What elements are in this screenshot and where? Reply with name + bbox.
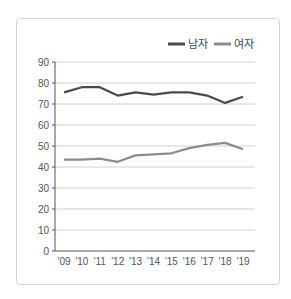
y-tick-label: 30 [38,183,50,194]
y-tick-label: 0 [43,246,49,257]
y-tick-label: 20 [38,204,50,215]
legend: 남자 여자 [168,38,254,51]
y-tick-label: 40 [38,162,50,173]
legend-male-label: 남자 [188,38,208,51]
y-axis-ticks: 0102030405060708090 [38,57,55,257]
x-tick-label: '16 [183,256,196,267]
x-tick-label: '09 [57,256,70,267]
x-axis-ticks: '09'10'11'12'13'14'15'16'17'18'19 [57,256,249,267]
y-tick-label: 50 [38,141,50,152]
x-tick-label: '13 [129,256,142,267]
y-tick-label: 80 [38,78,50,89]
line-chart: 0102030405060708090 '09'10'11'12'13'14'1… [0,0,291,299]
x-tick-label: '15 [165,256,178,267]
legend-female-label: 여자 [234,38,254,51]
x-tick-label: '18 [219,256,232,267]
y-tick-label: 90 [38,57,50,68]
x-tick-label: '14 [147,256,160,267]
y-tick-label: 10 [38,225,50,236]
x-tick-label: '10 [75,256,88,267]
series-line-male [64,87,243,103]
x-tick-label: '12 [111,256,124,267]
y-tick-label: 60 [38,120,50,131]
x-tick-label: '17 [201,256,214,267]
x-tick-label: '19 [236,256,249,267]
y-tick-label: 70 [38,99,50,110]
x-tick-label: '11 [94,256,107,267]
